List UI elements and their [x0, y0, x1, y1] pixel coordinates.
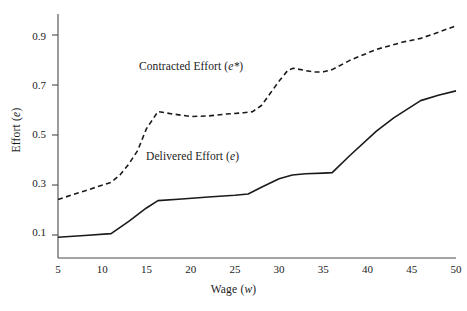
x-axis-title: Wage (w)	[0, 283, 467, 295]
x-tick-label: 35	[311, 263, 335, 275]
series-paths	[58, 26, 456, 238]
x-tick-label: 10	[90, 263, 114, 275]
contracted-effort-label-variable: e*	[228, 60, 239, 72]
delivered-effort-label: Delivered Effort (e)	[146, 150, 239, 162]
x-tick-label: 20	[179, 263, 203, 275]
delivered-effort-label-text: Delivered Effort	[146, 150, 223, 162]
contracted-effort-label: Contracted Effort (e*)	[139, 60, 243, 72]
x-tick-label: 5	[46, 263, 70, 275]
contracted-effort-label-text: Contracted Effort	[139, 60, 221, 72]
y-axis-title-variable: e	[10, 112, 22, 117]
delivered-effort-label-variable: e	[230, 150, 235, 162]
x-tick-label: 15	[134, 263, 158, 275]
x-tick-label: 45	[400, 263, 424, 275]
chart-figure: Effort (e) Wage (w) 0.10.30.50.70.9 5101…	[0, 0, 467, 311]
y-tick-label: 0.5	[12, 128, 46, 140]
y-axis-ticks	[52, 35, 58, 235]
y-tick-label: 0.1	[12, 226, 46, 238]
contracted-effort-line	[58, 26, 456, 200]
x-tick-label: 30	[267, 263, 291, 275]
x-tick-label: 25	[223, 263, 247, 275]
x-axis-title-text: Wage	[211, 283, 238, 295]
y-tick-label: 0.3	[12, 177, 46, 189]
x-tick-label: 50	[444, 263, 467, 275]
delivered-effort-line	[58, 91, 456, 237]
x-axis-title-variable: w	[244, 283, 252, 295]
y-tick-label: 0.7	[12, 79, 46, 91]
x-tick-label: 40	[356, 263, 380, 275]
y-tick-label: 0.9	[12, 30, 46, 42]
